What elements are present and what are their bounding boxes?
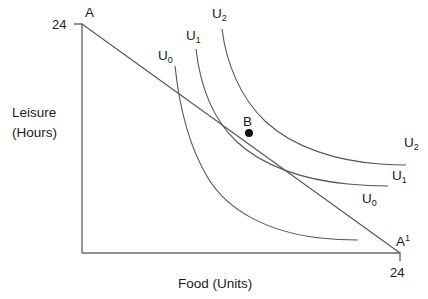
indifference-curve-u0 bbox=[175, 66, 358, 240]
y-axis bbox=[74, 24, 82, 253]
u0-end-subscript: 0 bbox=[372, 198, 377, 208]
point-a-prime-base: A bbox=[396, 234, 405, 249]
chart-svg: 24 24 A A1 B U0 U1 U2 U0 U1 U2 Leisure (… bbox=[0, 0, 428, 299]
indifference-curve-u1 bbox=[196, 49, 388, 186]
budget-constraint-line bbox=[82, 24, 400, 253]
x-axis bbox=[82, 253, 400, 261]
point-b-dot bbox=[245, 129, 253, 137]
u1-start-base: U bbox=[186, 28, 196, 43]
u1-end-base: U bbox=[392, 168, 402, 183]
u2-end-subscript: 2 bbox=[414, 142, 419, 152]
point-a-prime-superscript: 1 bbox=[405, 233, 410, 243]
point-a-prime-label: A1 bbox=[396, 233, 410, 249]
curve-label-u1-start: U1 bbox=[186, 28, 201, 45]
point-a-label: A bbox=[85, 5, 94, 20]
y-axis-title-line1: Leisure bbox=[12, 105, 56, 120]
curve-label-u2-end: U2 bbox=[404, 135, 419, 152]
u2-start-subscript: 2 bbox=[222, 13, 227, 23]
u1-end-subscript: 1 bbox=[402, 175, 407, 185]
u2-end-base: U bbox=[404, 135, 414, 150]
curve-label-u2-start: U2 bbox=[212, 6, 227, 23]
u0-start-subscript: 0 bbox=[168, 55, 173, 65]
indifference-curve-diagram: 24 24 A A1 B U0 U1 U2 U0 U1 U2 Leisure (… bbox=[0, 0, 428, 299]
u1-start-subscript: 1 bbox=[196, 35, 201, 45]
x-axis-max-tick-label: 24 bbox=[390, 265, 404, 280]
curve-label-u1-end: U1 bbox=[392, 168, 407, 185]
y-axis-title-line2: (Hours) bbox=[12, 125, 57, 140]
u0-start-base: U bbox=[158, 48, 168, 63]
u2-start-base: U bbox=[212, 6, 222, 21]
x-axis-title: Food (Units) bbox=[178, 276, 252, 291]
u0-end-base: U bbox=[362, 191, 372, 206]
curve-label-u0-start: U0 bbox=[158, 48, 173, 65]
point-b-label: B bbox=[243, 114, 252, 129]
curve-label-u0-end: U0 bbox=[362, 191, 377, 208]
y-axis-max-tick-label: 24 bbox=[52, 17, 66, 32]
